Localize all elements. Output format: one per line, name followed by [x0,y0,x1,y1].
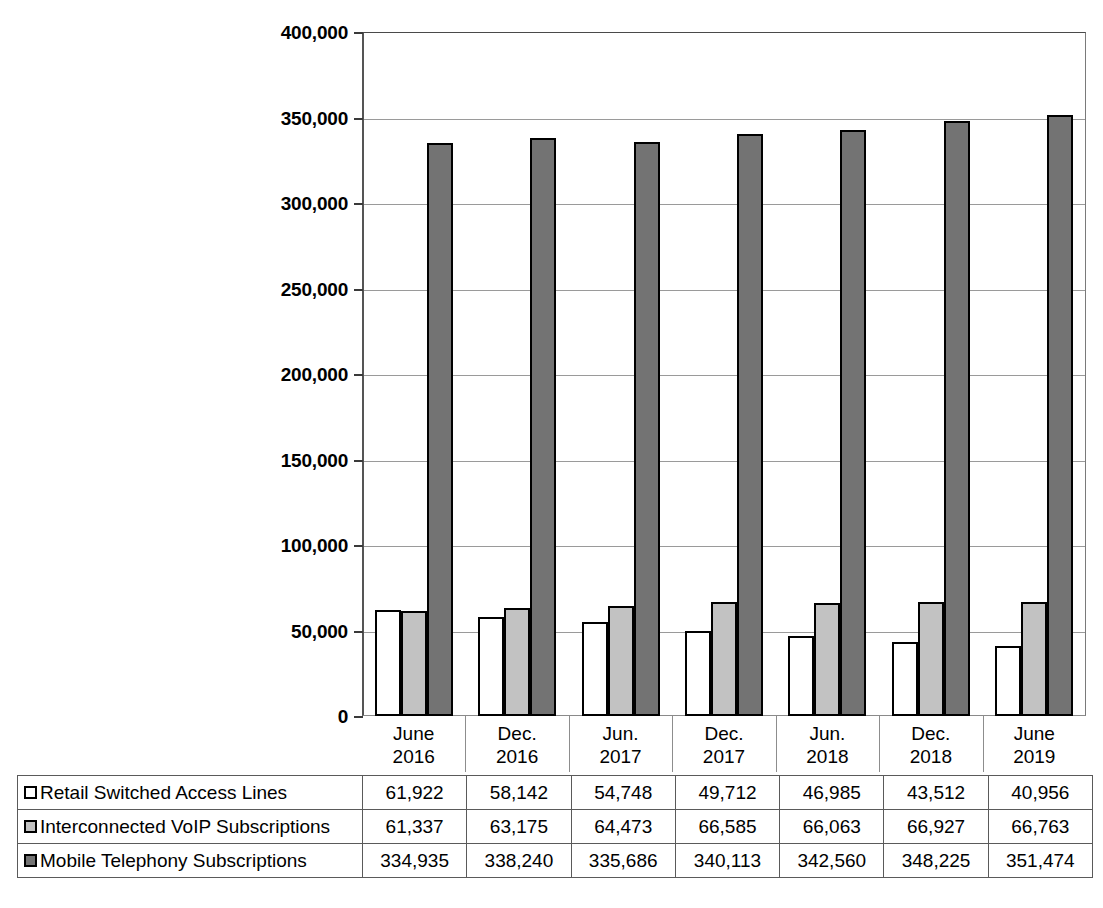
bar [1021,602,1047,716]
y-axis-tick-label: 400,000 [281,23,348,42]
table-cell-value: 49,712 [675,776,779,810]
legend-series-label: Retail Switched Access Lines [40,782,287,804]
y-axis-tick-mark [354,32,363,34]
table-cell-value: 334,935 [363,844,467,878]
table-cell-value: 40,956 [988,776,1092,810]
table-cell-value: 66,063 [780,810,884,844]
x-axis-category-label-line: 2018 [776,745,879,768]
legend-series-label: Interconnected VoIP Subscriptions [40,816,330,838]
table-cell-value: 61,337 [363,810,467,844]
y-axis-tick-label: 350,000 [281,108,348,127]
x-axis-category-label-line: Jun. [569,722,672,745]
table-cell-value: 342,560 [780,844,884,878]
x-axis-category-label-line: 2018 [879,745,982,768]
bar [427,143,453,716]
bar [685,631,711,716]
y-axis-tick-label: 300,000 [281,194,348,213]
table-row: Retail Switched Access Lines61,92258,142… [18,776,1093,810]
y-axis-tick-mark [354,203,363,205]
table-cell-value: 61,922 [363,776,467,810]
bar [504,608,530,716]
x-axis-category-label-line: 2016 [465,745,568,768]
x-axis-category-label: Jun.2017 [569,722,672,768]
table-cell-value: 340,113 [675,844,779,878]
x-axis-category-label-line: Jun. [776,722,879,745]
bar-chart: 400,000350,000300,000250,000200,000150,0… [0,0,1103,775]
table-cell-value: 338,240 [467,844,571,878]
y-axis-tick-mark [354,289,363,291]
table-cell-value: 64,473 [571,810,675,844]
table-row: Mobile Telephony Subscriptions334,935338… [18,844,1093,878]
legend-series-cell: Mobile Telephony Subscriptions [18,844,363,878]
bar [608,606,634,716]
bar [944,121,970,716]
table-cell-value: 43,512 [884,776,988,810]
bar [478,617,504,716]
bar [1047,115,1073,716]
x-axis-category-label: June2019 [983,722,1086,768]
x-axis-category-label: Dec.2017 [672,722,775,768]
bar-group [582,32,660,716]
table-cell-value: 54,748 [571,776,675,810]
table-cell-value: 335,686 [571,844,675,878]
bar [401,611,427,716]
table-cell-value: 348,225 [884,844,988,878]
bar-group [788,32,866,716]
x-axis-category-label-line: Dec. [672,722,775,745]
bar [918,602,944,716]
y-axis-tick-label: 100,000 [281,536,348,555]
legend-series-cell: Retail Switched Access Lines [18,776,363,810]
y-axis-tick-label: 150,000 [281,450,348,469]
table-cell-value: 58,142 [467,776,571,810]
table-cell-value: 66,763 [988,810,1092,844]
y-axis-tick-mark [354,460,363,462]
bar [737,134,763,716]
y-axis-tick-mark [354,118,363,120]
table-cell-value: 63,175 [467,810,571,844]
x-axis-category-label-line: 2019 [983,745,1086,768]
bar-group [685,32,763,716]
y-axis-tick-mark [354,374,363,376]
bar [995,646,1021,716]
table-cell-value: 351,474 [988,844,1092,878]
table-row: Interconnected VoIP Subscriptions61,3376… [18,810,1093,844]
data-table: Retail Switched Access Lines61,92258,142… [17,775,1093,878]
legend-swatch-icon [24,786,37,799]
bar-group [892,32,970,716]
bars-layer [362,32,1086,716]
legend-swatch-icon [24,854,37,867]
bar-group [478,32,556,716]
x-axis-category-label: June2016 [362,722,465,768]
x-axis-category-label: Dec.2016 [465,722,568,768]
y-axis-tick-label: 250,000 [281,279,348,298]
bar [711,602,737,716]
y-axis-tick-labels: 400,000350,000300,000250,000200,000150,0… [240,0,348,775]
table-cell-value: 46,985 [780,776,884,810]
y-axis-tick-label: 200,000 [281,365,348,384]
x-axis-category-label: Jun.2018 [776,722,879,768]
table-cell-value: 66,927 [884,810,988,844]
bar [582,622,608,716]
bar [375,610,401,716]
x-axis-category-label-line: 2016 [362,745,465,768]
bar [530,138,556,716]
bar [788,636,814,716]
bar-group [375,32,453,716]
y-axis-tick-label: 0 [338,707,348,726]
x-axis-category-label-line: 2017 [569,745,672,768]
bar [892,642,918,716]
bar-group [995,32,1073,716]
bar [840,130,866,716]
x-axis-category-label-line: June [983,722,1086,745]
y-axis-tick-label: 50,000 [291,621,348,640]
x-axis-category-label-line: Dec. [879,722,982,745]
x-axis-category-label: Dec.2018 [879,722,982,768]
bar [814,603,840,716]
y-axis-tick-mark [354,631,363,633]
data-table-body: Retail Switched Access Lines61,92258,142… [18,776,1093,878]
table-cell-value: 66,585 [675,810,779,844]
y-axis-tick-mark [354,716,363,718]
x-axis-category-label-line: June [362,722,465,745]
legend-series-cell: Interconnected VoIP Subscriptions [18,810,363,844]
bar [634,142,660,716]
